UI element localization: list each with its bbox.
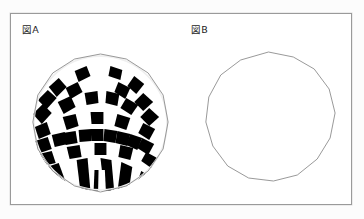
figure-b-drawing xyxy=(181,14,351,204)
figure-frame: 図A xyxy=(10,13,352,205)
figure-a-drawing xyxy=(11,14,181,204)
figure-a-panel: 図A xyxy=(11,14,181,204)
figure-b-outline xyxy=(206,52,335,181)
sphere-checkerboard xyxy=(33,55,168,194)
figure-b-panel: 図B xyxy=(181,14,351,204)
screenshot-root: 図A xyxy=(0,0,364,219)
